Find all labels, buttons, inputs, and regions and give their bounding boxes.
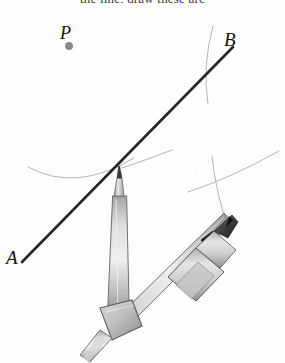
compass-hinge bbox=[80, 300, 142, 362]
label-point-a: A bbox=[6, 248, 18, 267]
compass-needle-point bbox=[117, 166, 122, 178]
point-p-dot bbox=[65, 42, 73, 50]
compass-needle-leg bbox=[107, 166, 130, 318]
compass-construction-figure bbox=[0, 0, 285, 363]
arc-upper-right bbox=[206, 26, 213, 104]
label-point-b: B bbox=[224, 30, 236, 49]
arc-lower-right bbox=[188, 151, 279, 192]
label-point-p: P bbox=[60, 24, 71, 42]
